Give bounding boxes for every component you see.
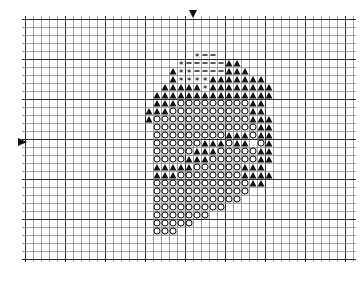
circle-stitch-icon (210, 172, 216, 178)
triangle-stitch-icon (250, 164, 257, 171)
circle-stitch-icon (234, 156, 240, 162)
circle-stitch-icon (178, 212, 184, 218)
triangle-stitch-icon (258, 100, 265, 107)
triangle-stitch-icon (146, 108, 153, 115)
circle-stitch-icon (210, 100, 216, 106)
triangle-stitch-icon (210, 148, 217, 155)
triangle-stitch-icon (234, 68, 241, 75)
circle-stitch-icon (162, 156, 168, 162)
triangle-stitch-icon (250, 180, 257, 187)
circle-stitch-icon (186, 124, 192, 130)
circle-stitch-icon (162, 116, 168, 122)
triangle-stitch-icon (186, 92, 193, 99)
triangle-stitch-icon (154, 172, 161, 179)
circle-stitch-icon (226, 116, 232, 122)
circle-stitch-icon (242, 108, 248, 114)
circle-stitch-icon (186, 132, 192, 138)
circle-stitch-icon (250, 148, 256, 154)
circle-stitch-icon (162, 228, 168, 234)
triangle-stitch-icon (194, 148, 201, 155)
circle-stitch-icon (218, 172, 224, 178)
circle-stitch-icon (186, 108, 192, 114)
circle-stitch-icon (242, 148, 248, 154)
triangle-stitch-icon (258, 108, 265, 115)
triangle-stitch-icon (266, 92, 273, 99)
circle-stitch-icon (218, 116, 224, 122)
circle-stitch-icon (234, 100, 240, 106)
circle-stitch-icon (154, 228, 160, 234)
circle-stitch-icon (178, 204, 184, 210)
circle-stitch-icon (210, 164, 216, 170)
triangle-stitch-icon (178, 164, 185, 171)
circle-stitch-icon (234, 180, 240, 186)
circle-stitch-icon (170, 228, 176, 234)
circle-stitch-icon (154, 212, 160, 218)
triangle-stitch-icon (242, 172, 249, 179)
triangle-stitch-icon (242, 76, 249, 83)
circle-stitch-icon (170, 124, 176, 130)
triangle-stitch-icon (242, 84, 249, 91)
circle-stitch-icon (234, 148, 240, 154)
triangle-stitch-icon (162, 92, 169, 99)
circle-stitch-icon (178, 180, 184, 186)
circle-stitch-icon (242, 180, 248, 186)
circle-stitch-icon (162, 180, 168, 186)
circle-stitch-icon (178, 220, 184, 226)
triangle-stitch-icon (266, 116, 273, 123)
triangle-stitch-icon (242, 68, 249, 75)
circle-stitch-icon (210, 180, 216, 186)
circle-stitch-icon (194, 124, 200, 130)
triangle-stitch-icon (154, 164, 161, 171)
circle-stitch-icon (154, 140, 160, 146)
circle-stitch-icon (178, 188, 184, 194)
circle-stitch-icon (218, 132, 224, 138)
circle-stitch-icon (170, 220, 176, 226)
circle-stitch-icon (170, 108, 176, 114)
circle-stitch-icon (186, 100, 192, 106)
triangle-stitch-icon (226, 76, 233, 83)
triangle-stitch-icon (242, 132, 249, 139)
circle-stitch-icon (170, 196, 176, 202)
circle-stitch-icon (226, 156, 232, 162)
circle-stitch-icon (186, 116, 192, 122)
triangle-stitch-icon (146, 116, 153, 123)
triangle-stitch-icon (266, 156, 273, 163)
center-row-marker-icon (18, 138, 27, 146)
circle-stitch-icon (218, 100, 224, 106)
triangle-stitch-icon (258, 76, 265, 83)
circle-stitch-icon (226, 180, 232, 186)
circle-stitch-icon (170, 212, 176, 218)
triangle-stitch-icon (218, 76, 225, 83)
circle-stitch-icon (178, 156, 184, 162)
triangle-stitch-icon (202, 140, 209, 147)
circle-stitch-icon (218, 180, 224, 186)
triangle-stitch-icon (210, 84, 217, 91)
triangle-stitch-icon (234, 132, 241, 139)
triangle-stitch-icon (178, 92, 185, 99)
triangle-stitch-icon (266, 172, 273, 179)
triangle-stitch-icon (162, 84, 169, 91)
circle-stitch-icon (154, 132, 160, 138)
circle-stitch-icon (234, 172, 240, 178)
triangle-stitch-icon (266, 132, 273, 139)
triangle-stitch-icon (154, 100, 161, 107)
triangle-stitch-icon (250, 92, 257, 99)
circle-stitch-icon (162, 204, 168, 210)
triangle-stitch-icon (226, 68, 233, 75)
circle-stitch-icon (162, 196, 168, 202)
triangle-stitch-icon (218, 140, 225, 147)
circle-stitch-icon (162, 140, 168, 146)
circle-stitch-icon (218, 108, 224, 114)
circle-stitch-icon (154, 180, 160, 186)
circle-stitch-icon (202, 116, 208, 122)
circle-stitch-icon (162, 212, 168, 218)
circle-stitch-icon (186, 188, 192, 194)
circle-stitch-icon (250, 156, 256, 162)
asterisk-stitch-icon: ✶ (186, 75, 193, 84)
circle-stitch-icon (186, 204, 192, 210)
triangle-stitch-icon (170, 84, 177, 91)
triangle-stitch-icon (234, 140, 241, 147)
circle-stitch-icon (218, 204, 224, 210)
circle-stitch-icon (178, 132, 184, 138)
circle-stitch-icon (258, 140, 264, 146)
